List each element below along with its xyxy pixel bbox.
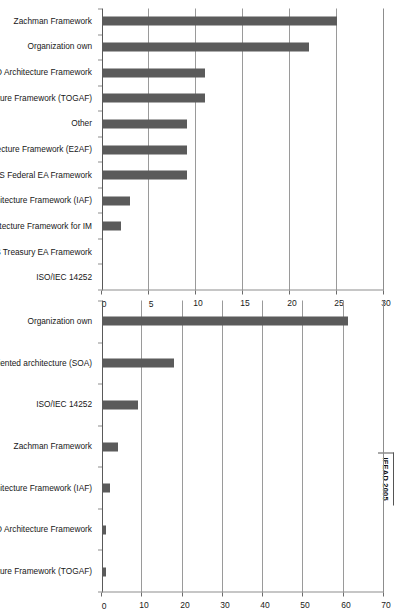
x-tick-label: Integrated Architecture Framework (IAF) <box>0 187 96 213</box>
x-tick-mark <box>98 34 102 60</box>
chart-1-axis <box>102 8 103 290</box>
x-tick-mark <box>98 508 102 550</box>
chart-2-axis <box>102 300 103 592</box>
x-tick-label: Organization own <box>0 34 96 60</box>
chart-2-x-ticks <box>98 300 102 592</box>
bar <box>102 483 110 492</box>
y-tick-label: 30 <box>220 592 230 613</box>
chart-1-x-axis-labels: Zachman FrameworkOrganization ownUS DoD … <box>0 8 96 290</box>
x-tick-mark <box>98 238 102 264</box>
x-tick-mark <box>98 212 102 238</box>
bar-slot <box>102 162 384 188</box>
x-tick-label: ISO/IEC 14252 <box>0 264 96 290</box>
y-tick-label: 70 <box>381 592 391 613</box>
y-tick-label: 40 <box>260 592 270 613</box>
x-tick-label: The Open Group Architecture Framework (T… <box>0 85 96 111</box>
x-tick-label: US DoD Architecture Framework <box>0 509 96 551</box>
x-tick-mark <box>98 383 102 425</box>
x-tick-mark <box>98 161 102 187</box>
bar-slot <box>102 383 384 425</box>
bar <box>102 93 205 102</box>
bar-slot <box>102 187 384 213</box>
x-tick-mark <box>98 136 102 162</box>
bar-slot <box>102 425 384 467</box>
bar-slot <box>102 264 384 290</box>
x-tick-label: US Technical Architecture Framework for … <box>0 213 96 239</box>
x-tick-label: ISO/IEC 14252 <box>0 383 96 425</box>
chart-1: 051015202530 Zachman FrameworkOrganizati… <box>12 8 384 290</box>
x-tick-mark <box>98 466 102 508</box>
chart-1-x-ticks <box>98 8 102 290</box>
y-tick-label: 20 <box>180 592 190 613</box>
x-tick-label: Other <box>0 111 96 137</box>
bar <box>102 119 187 128</box>
chart-2-bars <box>102 300 384 592</box>
bar <box>102 358 175 367</box>
x-tick-label: US Federal EA Framework <box>0 162 96 188</box>
x-tick-mark <box>98 110 102 136</box>
y-tick-label: 50 <box>300 592 310 613</box>
chart-2-y-axis-labels: 010203040506070 <box>102 592 384 613</box>
bar-slot <box>102 342 384 384</box>
x-tick-label: Zachman Framework <box>0 8 96 34</box>
bar <box>102 400 138 409</box>
x-tick-mark <box>98 300 102 342</box>
x-tick-label: Service oriented architecture (SOA) <box>0 342 96 384</box>
bar <box>102 16 337 25</box>
bar-slot <box>102 136 384 162</box>
x-tick-label: Integrated Architecture Framework (IAF) <box>0 467 96 509</box>
bar-slot <box>102 85 384 111</box>
bar-slot <box>102 239 384 265</box>
bar <box>102 196 130 205</box>
y-tick-label: 60 <box>341 592 351 613</box>
x-tick-mark <box>98 425 102 467</box>
chart-2-plot-area: 010203040506070 <box>102 300 384 592</box>
bar-slot <box>102 467 384 509</box>
x-tick-label: The Open Group Architecture Framework (T… <box>0 550 96 592</box>
chart-2-x-axis-labels: Organization ownService oriented archite… <box>0 300 96 592</box>
x-tick-mark <box>98 59 102 85</box>
bar-slot <box>102 213 384 239</box>
x-tick-label: US DoD Architecture Framework <box>0 59 96 85</box>
x-tick-mark <box>98 8 102 34</box>
bar <box>102 145 187 154</box>
y-tick-label: 10 <box>139 592 149 613</box>
bar-slot <box>102 300 384 342</box>
x-tick-label: Extended Enterprise Architecture Framewo… <box>0 136 96 162</box>
bar-slot <box>102 111 384 137</box>
x-tick-label: US Treasury EA Framework <box>0 239 96 265</box>
bar-slot <box>102 509 384 551</box>
bar-slot <box>102 8 384 34</box>
x-tick-label: Zachman Framework <box>0 425 96 467</box>
bar <box>102 170 187 179</box>
x-tick-mark <box>98 85 102 111</box>
chart-2: 010203040506070 Organization ownService … <box>12 300 384 592</box>
x-tick-label: Organization own <box>0 300 96 342</box>
x-tick-mark <box>98 549 102 592</box>
chart-1-bars <box>102 8 384 290</box>
bar <box>102 442 118 451</box>
bar-slot <box>102 59 384 85</box>
bar-slot <box>102 34 384 60</box>
bar <box>102 316 348 325</box>
x-tick-mark <box>98 263 102 290</box>
bar <box>102 42 309 51</box>
x-tick-mark <box>98 187 102 213</box>
bar-slot <box>102 550 384 592</box>
y-tick-label: 0 <box>99 592 109 613</box>
bar <box>102 68 205 77</box>
chart-1-plot-area: 051015202530 <box>102 8 384 290</box>
x-tick-mark <box>98 342 102 384</box>
bar <box>102 221 121 230</box>
